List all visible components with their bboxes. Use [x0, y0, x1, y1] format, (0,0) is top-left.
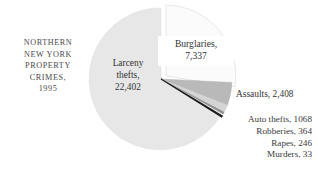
slice-label-larceny-thefts: Larceny thefts, 22,402	[99, 57, 157, 93]
larceny-label-value: 22,402	[99, 81, 157, 93]
chart-caption: NORTHERN NEW YORK PROPERTY CRIMES, 1995	[6, 37, 90, 95]
slice-label-burglaries: Burglaries, 7,337	[158, 36, 234, 66]
slice-label-stack: Auto thefts, 1068 Robberies, 364 Rapes, …	[186, 114, 314, 161]
slice-label-assaults: Assaults, 2,408	[236, 89, 294, 100]
burglaries-label-value: 7,337	[159, 50, 233, 62]
caption-line-3: PROPERTY	[6, 60, 90, 72]
slice-label-robberies: Robberies, 364	[186, 126, 314, 138]
caption-line-1: NORTHERN	[6, 37, 90, 49]
slice-label-murders: Murders, 33	[186, 149, 314, 161]
caption-line-2: NEW YORK	[6, 49, 90, 61]
slice-label-auto-thefts: Auto thefts, 1068	[186, 114, 314, 126]
burglaries-label-line-1: Burglaries,	[159, 38, 233, 50]
caption-line-4: CRIMES,	[6, 72, 90, 84]
pie-chart-figure: NORTHERN NEW YORK PROPERTY CRIMES, 1995 …	[0, 0, 318, 174]
caption-line-5: 1995	[6, 83, 90, 95]
larceny-label-line-2: thefts,	[99, 69, 157, 81]
slice-label-rapes: Rapes, 246	[186, 138, 314, 150]
larceny-label-line-1: Larceny	[99, 57, 157, 69]
